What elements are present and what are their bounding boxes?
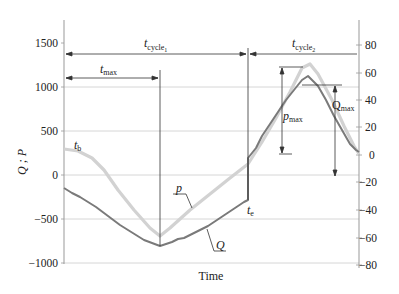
right-tick-label: −60 <box>359 232 377 244</box>
left-axis: 1500 1000 500 0 −500 −1000 <box>29 20 65 269</box>
p-series-label: p <box>173 181 192 208</box>
svg-text:Q: Q <box>216 238 225 252</box>
series-q-line <box>64 76 359 246</box>
right-tick-label: 80 <box>365 39 377 51</box>
right-tick-label: 60 <box>365 67 377 79</box>
right-tick-label: −80 <box>359 259 377 271</box>
t-cycle1-arrow <box>66 52 246 56</box>
t-cycle1-label: tcycle1 <box>144 36 167 53</box>
q-series-label: Q <box>207 229 226 252</box>
left-tick-label: −500 <box>34 213 58 225</box>
q-max-label: Qmax <box>332 98 354 113</box>
t-max-label: tmax <box>100 62 117 77</box>
right-tick-label: −20 <box>359 176 377 188</box>
left-tick-label: −1000 <box>29 257 59 269</box>
right-tick-label: 20 <box>365 121 377 133</box>
t-cycle2-label: tcycle2 <box>292 36 315 53</box>
left-tick-label: 500 <box>41 125 59 137</box>
right-tick-label: 40 <box>365 94 377 106</box>
left-tick-label: 1000 <box>35 81 58 93</box>
p-max-label: pmax <box>282 109 303 124</box>
t-e-label: te <box>247 203 254 218</box>
t-cycle2-arrow <box>250 52 357 56</box>
right-tick-label: 0 <box>369 149 375 161</box>
left-tick-label: 1500 <box>35 37 58 49</box>
right-axis: 80 60 40 20 0 −20 −40 −60 −80 <box>356 20 377 271</box>
chart: 1500 1000 500 0 −500 −1000 Q ; P 80 60 4… <box>0 0 399 294</box>
t-b-label: tb <box>74 138 81 153</box>
right-tick-label: −40 <box>359 204 377 216</box>
x-axis-label: Time <box>199 269 224 283</box>
y-axis-label: Q ; P <box>15 148 29 175</box>
svg-text:p: p <box>175 181 182 195</box>
left-tick-label: 0 <box>52 169 58 181</box>
series-p-line <box>64 64 359 236</box>
